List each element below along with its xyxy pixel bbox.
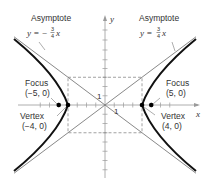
focus-right-leader bbox=[153, 98, 160, 104]
x-axis-label: x bbox=[195, 109, 200, 119]
focus-right-title: Focus bbox=[166, 78, 189, 88]
focus-left-point bbox=[56, 103, 61, 108]
hyperbola-diagram: y x 1 1 Asymptote y = − 3 4 x Asymptote … bbox=[0, 0, 213, 180]
asymptote-left-eq-suffix: x bbox=[55, 28, 60, 38]
asymptote-left-frac-den: 4 bbox=[51, 33, 54, 39]
focus-left-title: Focus bbox=[25, 78, 48, 88]
x-axis-arrow-icon bbox=[194, 103, 200, 107]
asymptote-right-eq-prefix: y = bbox=[139, 28, 152, 38]
focus-left-coords: (−5, 0) bbox=[25, 88, 50, 98]
x-axis bbox=[18, 103, 200, 107]
asymptote-right-frac-den: 4 bbox=[157, 33, 160, 39]
asymptote-right-label: Asymptote y = 3 4 x bbox=[139, 13, 179, 39]
asymptote-right-title: Asymptote bbox=[139, 13, 179, 23]
vertex-left-coords: (−4, 0) bbox=[22, 121, 47, 131]
focus-left-leader bbox=[51, 98, 57, 104]
y-axis-label: y bbox=[109, 14, 114, 24]
y-unit-label: 1 bbox=[97, 92, 102, 101]
vertex-left-point bbox=[66, 103, 71, 108]
asymptote-right-eq-suffix: x bbox=[161, 28, 166, 38]
asymptote-left-eq-prefix: y = − bbox=[26, 28, 48, 38]
asymptote-right-leader bbox=[172, 42, 175, 51]
y-axis bbox=[103, 15, 107, 178]
asymptote-left-title: Asymptote bbox=[31, 13, 71, 23]
y-axis-arrow-icon bbox=[103, 15, 107, 21]
vertex-right-coords: (4, 0) bbox=[162, 121, 182, 131]
asymptote-left-label: Asymptote y = − 3 4 x bbox=[26, 13, 71, 39]
asymptote-left-frac-num: 3 bbox=[51, 26, 54, 32]
x-unit-label: 1 bbox=[114, 107, 119, 116]
asymptote-right-frac-num: 3 bbox=[157, 26, 160, 32]
vertex-right-title: Vertex bbox=[161, 111, 186, 121]
focus-right-point bbox=[149, 103, 154, 108]
asymptote-left-leader bbox=[39, 42, 45, 50]
focus-right-coords: (5, 0) bbox=[166, 88, 186, 98]
vertex-left-title: Vertex bbox=[20, 111, 45, 121]
vertex-right-point bbox=[140, 103, 145, 108]
